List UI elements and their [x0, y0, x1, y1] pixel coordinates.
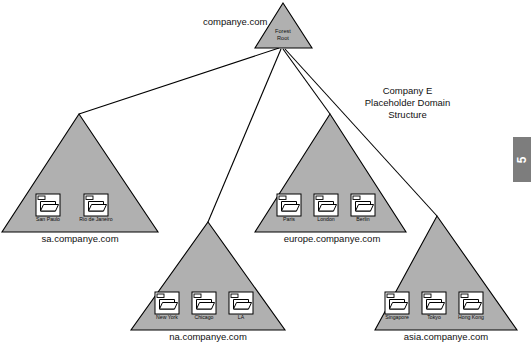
- folder-icon-europe-3: [351, 194, 375, 216]
- domain-structure-diagram: companye.com Forest Root Company E Place…: [0, 0, 531, 347]
- folder-icon-na-3: [229, 292, 253, 314]
- page-number-label: 5: [515, 156, 529, 163]
- folder-icon-europe-1: [277, 194, 301, 216]
- forest-root-line-1: Forest: [265, 28, 301, 35]
- ou-label-asia-3: Hong Kong: [451, 314, 491, 320]
- diagram-canvas: [0, 0, 531, 347]
- domain-caption-na: na.companye.com: [148, 332, 268, 343]
- root-domain-label: companye.com: [203, 17, 267, 28]
- diagram-title-line-1: Company E: [350, 85, 465, 98]
- folder-icon-na-1: [155, 292, 179, 314]
- page-number-tab: 5: [513, 137, 531, 182]
- sa-domain-triangle: [2, 114, 158, 232]
- diagram-title-line-2: Placeholder Domain: [350, 97, 465, 110]
- folder-icon-sa-1: [36, 194, 60, 216]
- folder-icon-sa-2: [84, 194, 108, 216]
- domain-caption-sa: sa.companye.com: [20, 234, 140, 245]
- ou-label-europe-3: Berlin: [345, 216, 381, 222]
- folder-icon-asia-1: [385, 292, 409, 314]
- ou-label-europe-1: Paris: [271, 216, 307, 222]
- ou-label-asia-2: Tokyo: [416, 314, 452, 320]
- folder-icon-asia-3: [459, 292, 483, 314]
- domain-caption-europe: europe.companye.com: [272, 234, 392, 245]
- ou-label-sa-1: San Paulo: [28, 216, 68, 222]
- domain-caption-asia: asia.companye.com: [386, 332, 506, 343]
- connector-root-to-na: [208, 49, 281, 222]
- connector-root-to-europe: [283, 49, 330, 114]
- folder-icon-na-2: [192, 292, 216, 314]
- ou-label-na-2: Chicago: [186, 314, 222, 320]
- ou-label-na-1: New York: [149, 314, 185, 320]
- diagram-title-line-3: Structure: [350, 109, 465, 122]
- folder-icon-europe-2: [314, 194, 338, 216]
- folder-icon-asia-2: [422, 292, 446, 314]
- connector-root-to-sa: [79, 48, 279, 114]
- forest-root-line-2: Root: [265, 35, 301, 42]
- ou-label-na-3: LA: [223, 314, 259, 320]
- ou-label-europe-2: London: [308, 216, 344, 222]
- ou-label-asia-1: Singapore: [379, 314, 415, 320]
- ou-label-sa-2: Rio de Janeiro: [72, 216, 120, 222]
